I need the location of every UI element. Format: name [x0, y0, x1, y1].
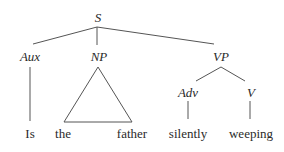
edge-s-vp — [97, 27, 214, 44]
leaf-is: Is — [25, 126, 34, 141]
node-vp: VP — [213, 49, 229, 64]
leaf-silently: silently — [169, 126, 208, 141]
category-labels: S Aux NP VP Adv V — [19, 10, 257, 100]
edge-s-aux — [33, 27, 97, 44]
leaf-words: Is the father silently weeping — [25, 126, 273, 141]
node-v: V — [247, 85, 257, 100]
leaf-the: the — [55, 126, 71, 141]
edge-vp-v — [221, 67, 245, 81]
leaf-father: father — [117, 126, 148, 141]
node-s: S — [95, 10, 102, 25]
node-adv: Adv — [177, 85, 198, 100]
syntax-tree-diagram: S Aux NP VP Adv V Is the father silently… — [0, 0, 284, 152]
tree-edges — [30, 27, 250, 122]
node-np: NP — [90, 49, 108, 64]
leaf-weeping: weeping — [229, 126, 274, 141]
np-triangle — [64, 67, 132, 122]
edge-vp-adv — [196, 67, 221, 81]
node-aux: Aux — [19, 49, 40, 64]
